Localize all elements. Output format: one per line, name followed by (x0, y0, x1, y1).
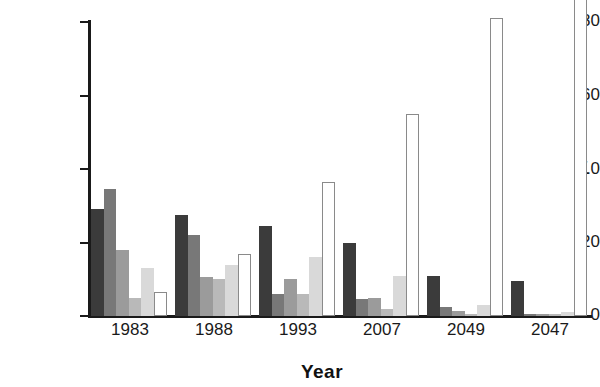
x-tick-label: 2007 (343, 320, 421, 340)
bar-group (175, 22, 253, 316)
bar (490, 18, 503, 316)
bar (465, 314, 478, 316)
bar-group (259, 22, 337, 316)
bar (368, 298, 381, 316)
bar (427, 276, 440, 316)
bar (393, 276, 406, 316)
bar (561, 312, 574, 316)
bar (284, 279, 297, 316)
x-axis-title-text: Year (301, 361, 343, 383)
bar (129, 298, 142, 316)
bar (440, 307, 453, 316)
bar (297, 294, 310, 316)
bar (91, 209, 104, 316)
bar (322, 182, 335, 316)
bar (154, 292, 167, 316)
bar (549, 314, 562, 316)
bar (536, 314, 549, 316)
bar (574, 0, 587, 316)
bar (175, 215, 188, 316)
bar (309, 257, 322, 316)
bar (200, 277, 213, 316)
bar (238, 254, 251, 316)
bar-group (511, 22, 589, 316)
bar (116, 250, 129, 316)
bar (406, 114, 419, 316)
x-tick-label: 1993 (259, 320, 337, 340)
bar-group (91, 22, 169, 316)
bar (524, 314, 537, 316)
y-tick-mark (80, 242, 88, 244)
y-tick-mark (80, 21, 88, 23)
bar (188, 235, 201, 316)
x-tick-label: 2049 (427, 320, 505, 340)
y-tick-mark (80, 315, 88, 317)
x-tick-label: 1983 (91, 320, 169, 340)
bar (104, 189, 117, 316)
bar (356, 299, 369, 316)
bar (511, 281, 524, 316)
y-tick-mark (80, 168, 88, 170)
x-axis-title: Year (0, 361, 600, 383)
bar-chart-figure: Percentage 020∠06080 1983198819932007204… (0, 0, 600, 387)
bar (272, 294, 285, 316)
x-tick-label: 2047 (511, 320, 589, 340)
bar (343, 243, 356, 317)
plot-area (88, 22, 592, 316)
bar-group (427, 22, 505, 316)
bar-group (343, 22, 421, 316)
bar (477, 305, 490, 316)
bar (259, 226, 272, 316)
bar (452, 311, 465, 317)
bar (381, 309, 394, 316)
bar (141, 268, 154, 316)
y-tick-mark (80, 95, 88, 97)
bar (213, 279, 226, 316)
x-tick-label: 1988 (175, 320, 253, 340)
bar (225, 265, 238, 316)
y-axis-title: Percentage (0, 0, 36, 387)
